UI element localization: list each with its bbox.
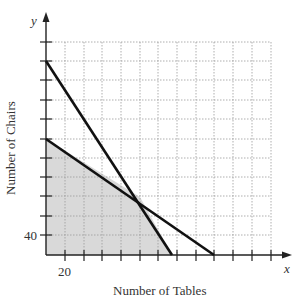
x-axis-symbol: x xyxy=(283,261,290,276)
y-axis-arrow-icon xyxy=(43,12,50,22)
y-tick-label-40: 40 xyxy=(24,228,37,243)
chart-canvas: y x 40 20 Number of Tables Number of Cha… xyxy=(0,0,299,307)
y-axis-title: Number of Chairs xyxy=(3,101,18,195)
x-axis-arrow-icon xyxy=(282,252,292,259)
x-axis-title: Number of Tables xyxy=(113,283,206,298)
x-tick-label-20: 20 xyxy=(58,264,71,279)
y-axis-symbol: y xyxy=(29,13,37,28)
